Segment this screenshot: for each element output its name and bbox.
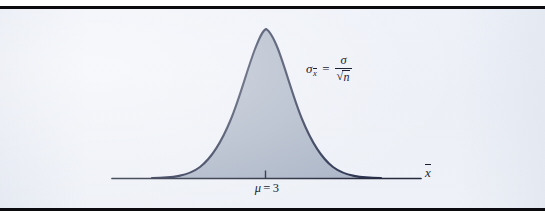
- formula-sqrt-group: √ n: [337, 70, 351, 83]
- mean-mu-symbol: μ: [255, 181, 262, 195]
- mean-equals-sign: =: [263, 181, 270, 195]
- mean-axis-label: μ=3: [240, 181, 294, 196]
- formula-sigma-xbar: σx: [306, 62, 316, 75]
- formula-subscript-xbar: x: [313, 69, 317, 78]
- formula-numerator: σ: [338, 54, 348, 68]
- figure-container: σx = σ √ n μ=3 x: [0, 0, 545, 219]
- formula-equals-sign: =: [322, 62, 329, 75]
- x-axis-label-text: x: [425, 165, 431, 181]
- mean-value: 3: [273, 181, 280, 195]
- normal-curve-shaded-area: [152, 29, 381, 178]
- formula-fraction: σ √ n: [335, 54, 353, 83]
- formula-denominator: √ n: [335, 69, 353, 83]
- formula-radicand: n: [342, 70, 350, 83]
- formula-sigma-symbol: σ: [306, 61, 312, 76]
- x-axis-label: x: [425, 165, 431, 181]
- standard-error-formula: σx = σ √ n: [306, 54, 352, 83]
